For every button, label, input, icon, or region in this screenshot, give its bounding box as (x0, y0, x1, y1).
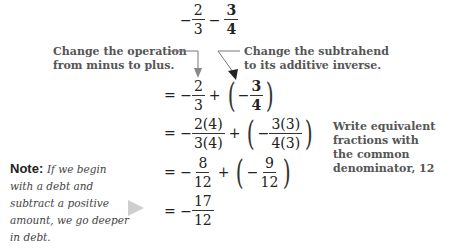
note-box: Note: If we begin with a debt and subtra… (10, 160, 130, 246)
step-2: = − 2(4)3(4) + (−3(3)4(3)) (164, 116, 315, 150)
step-4-result: = − 1712 (164, 194, 214, 227)
note-label: Note: (10, 161, 43, 176)
annotation-equivalent-fractions: Write equivalent fractions with the comm… (333, 120, 476, 176)
step-1: = − 23 + (−34) (164, 78, 277, 112)
pointer-arrow-icon (128, 200, 144, 216)
step-3: = − 812 + (−912) (164, 155, 294, 189)
